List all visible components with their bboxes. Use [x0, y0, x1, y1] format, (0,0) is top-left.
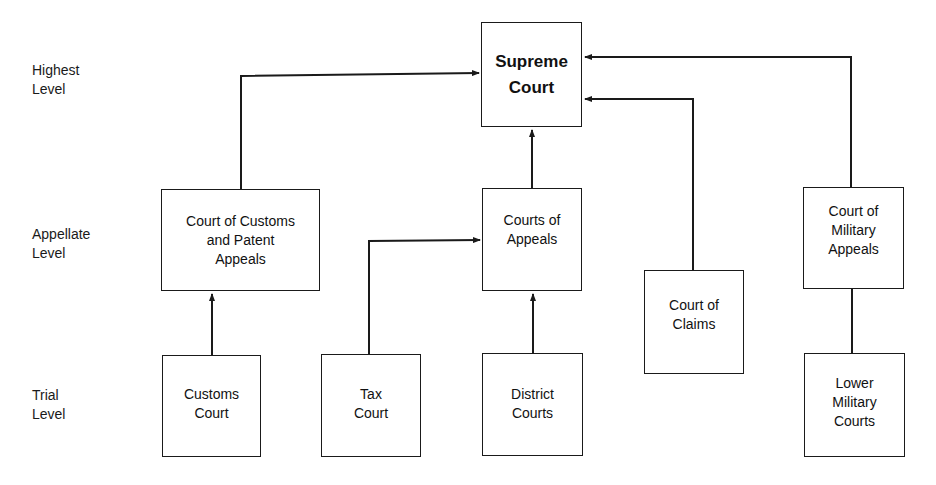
node-courts-of-appeals: Courts of Appeals — [482, 188, 582, 291]
node-label: Customs Court — [184, 385, 239, 423]
node-court-of-military-appeals: Court of Military Appeals — [803, 187, 904, 289]
node-district-courts: District Courts — [482, 353, 583, 456]
node-label: Court of Customs and Patent Appeals — [186, 212, 295, 269]
node-label: Supreme Court — [495, 49, 568, 101]
node-supreme-court: Supreme Court — [481, 22, 582, 127]
node-court-of-claims: Court of Claims — [644, 270, 744, 374]
node-lower-military-courts: Lower Military Courts — [804, 353, 905, 457]
node-label: Tax Court — [354, 385, 388, 423]
node-court-of-customs-and-patent-appeals: Court of Customs and Patent Appeals — [161, 189, 320, 291]
node-customs-court: Customs Court — [162, 355, 261, 457]
node-label: Court of Military Appeals — [828, 202, 879, 259]
node-label: Court of Claims — [669, 296, 719, 334]
node-label: Courts of Appeals — [504, 211, 561, 249]
node-label: Lower Military Courts — [832, 374, 876, 431]
node-label: District Courts — [511, 385, 554, 423]
node-tax-court: Tax Court — [321, 354, 421, 457]
connector-lines — [0, 0, 936, 485]
